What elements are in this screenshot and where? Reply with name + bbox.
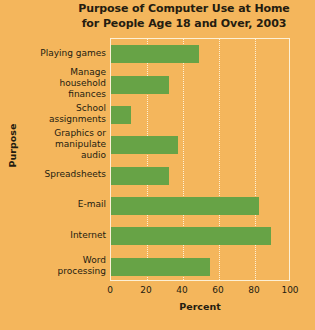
bar-row xyxy=(111,227,291,245)
y-axis-category-labels: Playing gamesManagehouseholdfinancesScho… xyxy=(10,38,106,281)
bar-row xyxy=(111,167,291,185)
bar xyxy=(111,227,271,245)
category-label-line: household xyxy=(14,78,106,89)
plot-area xyxy=(110,38,290,281)
x-axis-tick-label: 0 xyxy=(95,285,125,295)
category-label-line: manipulate xyxy=(14,139,106,150)
category-label-line: audio xyxy=(14,150,106,161)
bar-row xyxy=(111,258,291,276)
category-label: E-mail xyxy=(14,199,106,210)
category-label: Spreadsheets xyxy=(14,169,106,180)
x-axis-title: Percent xyxy=(110,301,290,312)
bar-row xyxy=(111,136,291,154)
category-label-line: assignments xyxy=(14,114,106,125)
category-label-line: Playing games xyxy=(14,48,106,59)
category-label-line: Spreadsheets xyxy=(14,169,106,180)
category-label-line: processing xyxy=(14,266,106,277)
bar xyxy=(111,197,259,215)
category-label-line: Graphics or xyxy=(14,128,106,139)
x-axis-tick-label: 60 xyxy=(203,285,233,295)
category-label-line: E-mail xyxy=(14,199,106,210)
category-label-line: Manage xyxy=(14,67,106,78)
bar xyxy=(111,258,210,276)
category-label-line: Internet xyxy=(14,230,106,241)
category-label: Graphics ormanipulateaudio xyxy=(14,128,106,162)
category-label-line: School xyxy=(14,103,106,114)
bar xyxy=(111,106,131,124)
x-axis-tick-label: 100 xyxy=(275,285,305,295)
category-label: Managehouseholdfinances xyxy=(14,67,106,101)
bar-row xyxy=(111,45,291,63)
bar xyxy=(111,76,169,94)
x-axis-tick-label: 40 xyxy=(167,285,197,295)
plot-inner xyxy=(111,39,289,280)
chart-title-line-2: for People Age 18 and Over, 2003 xyxy=(58,17,310,32)
bar xyxy=(111,45,199,63)
bar-row xyxy=(111,106,291,124)
bar xyxy=(111,136,178,154)
x-axis-tick-label: 80 xyxy=(239,285,269,295)
category-label: Schoolassignments xyxy=(14,103,106,125)
bar-chart-figure: Purpose of Computer Use at Home for Peop… xyxy=(0,0,315,330)
x-axis-tick-label: 20 xyxy=(131,285,161,295)
bar-row xyxy=(111,197,291,215)
bar xyxy=(111,167,169,185)
chart-title-line-1: Purpose of Computer Use at Home xyxy=(78,2,289,15)
category-label: Internet xyxy=(14,230,106,241)
category-label: Playing games xyxy=(14,48,106,59)
category-label-line: finances xyxy=(14,89,106,100)
chart-title: Purpose of Computer Use at Home for Peop… xyxy=(58,2,310,31)
bar-row xyxy=(111,76,291,94)
category-label-line: Word xyxy=(14,255,106,266)
category-label: Wordprocessing xyxy=(14,255,106,277)
